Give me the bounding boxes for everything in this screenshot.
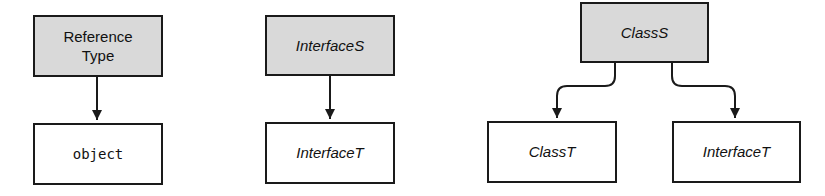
interfacet-label: InterfaceT (296, 143, 364, 163)
classs-box: ClassS (580, 2, 709, 63)
arrow-classs-to-classt (557, 62, 615, 118)
classt-box: ClassT (487, 121, 617, 183)
interfaces-label: InterfaceS (296, 36, 364, 56)
classs-label: ClassS (621, 23, 669, 43)
arrow-classs-to-interfacet (672, 62, 735, 118)
interfaces-box: InterfaceS (265, 15, 395, 76)
classt-label: ClassT (529, 142, 576, 162)
object-box: object (33, 123, 163, 185)
reference-type-label: Reference Type (63, 27, 132, 66)
object-label: object (73, 145, 124, 163)
class-interfacet-box: InterfaceT (672, 121, 801, 183)
interfacet-box: InterfaceT (265, 122, 395, 184)
reference-type-box: Reference Type (33, 15, 163, 77)
class-interfacet-label: InterfaceT (703, 142, 771, 162)
